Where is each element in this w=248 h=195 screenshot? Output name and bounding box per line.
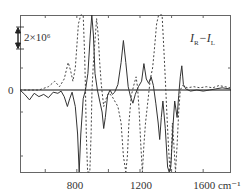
x-tick-label: 1600 cm⁻¹: [193, 180, 240, 191]
x-tick-label: 800: [67, 180, 84, 191]
x-tick-label: 1200: [130, 180, 152, 191]
spectrum-chart: [0, 0, 248, 195]
annotation-label: IR−IL: [190, 32, 215, 47]
scale-bar-text: 2×10⁶: [24, 31, 51, 43]
scale-bar-label: 2×10⁶: [24, 32, 51, 43]
y-zero-label: 0: [8, 85, 14, 96]
y-axis-ticks: [20, 68, 231, 156]
scale-bar-arrow-icon: [16, 27, 25, 49]
y-zero-text: 0: [8, 84, 14, 96]
x-axis-ticks: [45, 15, 203, 172]
